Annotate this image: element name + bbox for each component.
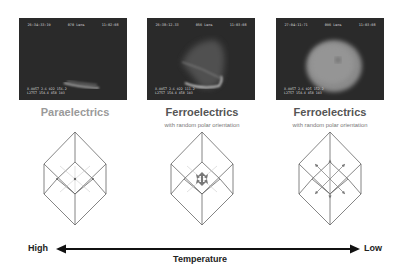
cube-small-polar-arrows-icon <box>152 128 252 228</box>
panel-title: Paraelectrics <box>10 106 140 118</box>
temperature-caption: Temperature <box>0 254 400 264</box>
low-label: Low <box>364 243 382 253</box>
panel-paraelectrics: 26:34:33:19 070 Lens 11:02:08 X.0057 2.6… <box>10 0 140 230</box>
cube-center-dot-icon <box>25 128 125 228</box>
panel-ferroelectrics-1: 26:38:12.33 056 Lens 11:03:08 X.0057 2.6… <box>137 0 267 230</box>
micrograph-photo: 26:34:33:19 070 Lens 11:02:08 X.0057 2.6… <box>19 18 127 100</box>
panel-title: Ferroelectrics <box>265 106 395 118</box>
cube-large-polar-arrows-icon <box>280 128 380 228</box>
photo-footer: X.0057 2.6 025 152.2L2757 154.4 458 103 <box>284 87 324 95</box>
photo-footer: X.0057 2.6 022 156.2L2757 154.4 458 103 <box>27 87 67 95</box>
micrograph-photo: 26:38:12.33 056 Lens 11:03:08 X.0057 2.6… <box>147 18 255 100</box>
panel-title: Ferroelectrics <box>137 106 267 118</box>
micrograph-photo: 27:04:11:71 096 Lens 11:03:08 X.0057 2.6… <box>276 18 384 100</box>
panel-ferroelectrics-2: 27:04:11:71 096 Lens 11:03:08 X.0057 2.6… <box>265 0 395 230</box>
photo-footer: X.0057 2.6 022 111.2L2757 154.4 458 103 <box>155 87 195 95</box>
